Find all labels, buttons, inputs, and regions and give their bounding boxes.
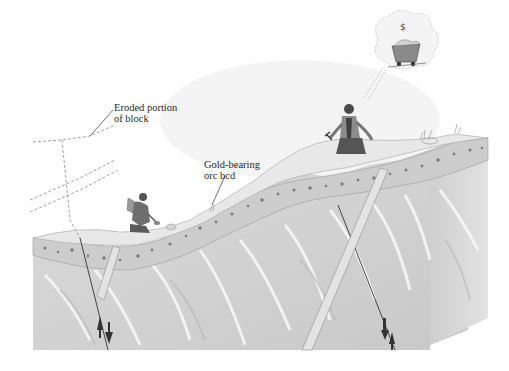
prospector-left — [127, 193, 160, 233]
eroded-block-outline — [30, 125, 118, 238]
label-ore-bed: Gold-bearing orc bcd — [204, 159, 260, 181]
geology-diagram: $ Eroded portion of block Gold-bearing o… — [0, 0, 509, 371]
label-ore-bed-line2: orc bcd — [204, 170, 260, 181]
label-eroded-portion: Eroded portion of block — [114, 102, 177, 124]
label-ore-bed-line1: Gold-bearing — [204, 159, 260, 170]
diagram-canvas: $ — [0, 0, 509, 371]
mine-cart-icon — [392, 44, 420, 62]
label-eroded-line1: Eroded portion — [114, 102, 177, 113]
dollar-sign-icon: $ — [400, 22, 406, 32]
label-eroded-line2: of block — [114, 113, 177, 124]
